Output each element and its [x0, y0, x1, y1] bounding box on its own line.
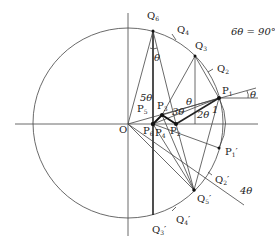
label-q4prime: Q4′	[176, 215, 190, 226]
angle-4theta: 4θ	[240, 186, 252, 196]
tick-q2	[208, 69, 213, 72]
label-q6: Q6	[147, 11, 159, 22]
arc-p1-p1prime	[219, 98, 226, 148]
diagram-canvas	[0, 0, 275, 249]
equation-label: 6θ = 90°	[231, 27, 275, 37]
angle-theta-mid: θ	[186, 97, 192, 107]
tick-q4prime	[172, 207, 176, 211]
label-origin: O	[119, 125, 127, 135]
angle-theta-top: θ	[154, 53, 160, 63]
angle-theta-right: θ	[250, 90, 256, 100]
label-p1prime: P1′	[225, 147, 238, 158]
label-p4: P4	[155, 128, 166, 139]
geometry-diagram: 6θ = 90° Q6 Q4 Q3 Q2 P1 θ θ θ 5θ 3θ 2θ 1…	[0, 0, 275, 249]
label-p2: P2	[170, 126, 181, 137]
angle-arc-right	[247, 91, 248, 98]
point-q3	[194, 55, 197, 58]
label-one: 1	[212, 105, 218, 115]
angle-2theta: 2θ	[197, 110, 209, 120]
angle-5theta: 5θ	[140, 93, 152, 103]
point-q6	[152, 30, 155, 33]
label-q3: Q3	[195, 41, 207, 52]
point-q5prime	[192, 188, 196, 192]
angle-3theta: 3θ	[172, 107, 184, 117]
label-q2: Q2	[217, 64, 229, 75]
point-p1	[217, 96, 221, 100]
point-p1prime	[218, 147, 221, 150]
label-q5prime: Q5′	[197, 194, 211, 205]
label-q3prime: Q3′	[152, 225, 166, 236]
line-q3-p1	[195, 56, 219, 98]
label-p6: P6	[143, 126, 154, 137]
label-p6-upper: P5	[137, 104, 148, 115]
label-q4: Q4	[177, 25, 189, 36]
label-p3: P3	[157, 101, 168, 112]
label-q2prime: Q2′	[215, 175, 229, 186]
label-p1: P1	[222, 86, 233, 97]
point-p3	[160, 113, 164, 117]
